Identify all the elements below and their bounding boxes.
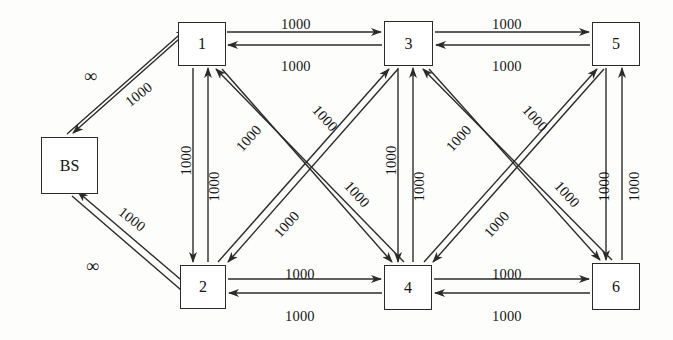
label-4-2-bottom: 1000 <box>285 308 315 325</box>
label-1-2-left: 1000 <box>178 146 195 176</box>
node-3[interactable]: 3 <box>384 21 433 66</box>
node-4[interactable]: 4 <box>384 265 432 310</box>
label-5-6-left: 1000 <box>596 172 613 202</box>
label-2-1-right: 1000 <box>206 172 223 202</box>
label-bs-2-infinity: ∞ <box>86 256 99 277</box>
label-3-1-bottom: 1000 <box>281 58 311 75</box>
node-6[interactable]: 6 <box>592 263 640 310</box>
label-6-5-right: 1000 <box>626 172 643 202</box>
network-topology-diagram: BS135246 ∞10001000∞100010001000100010001… <box>0 0 673 340</box>
edge-layer <box>0 0 673 340</box>
edge-3-2-down <box>228 69 398 262</box>
node-2[interactable]: 2 <box>180 265 226 309</box>
edge-1-4-down <box>222 69 392 262</box>
node-label: 5 <box>612 35 620 53</box>
node-5[interactable]: 5 <box>592 22 640 66</box>
edge-5-4-down <box>433 69 604 262</box>
node-label: 1 <box>198 35 206 53</box>
node-label: 4 <box>404 279 412 297</box>
edge-3-6-down <box>429 69 600 260</box>
node-bs[interactable]: BS <box>41 137 98 194</box>
label-3-4-left: 1000 <box>383 146 400 176</box>
label-3-5-top: 1000 <box>492 16 522 33</box>
label-4-3-right: 1000 <box>411 172 428 202</box>
node-1[interactable]: 1 <box>178 22 226 66</box>
label-6-4-bottom: 1000 <box>492 308 522 325</box>
node-label: 2 <box>199 278 207 296</box>
node-label: 3 <box>405 35 413 53</box>
node-label: 6 <box>612 278 620 296</box>
label-1-3-top: 1000 <box>281 16 311 33</box>
label-2-4-top: 1000 <box>285 266 315 283</box>
label-4-6-top: 1000 <box>492 266 522 283</box>
edges-group <box>67 24 622 302</box>
label-5-3-bottom: 1000 <box>492 58 522 75</box>
label-bs-1-infinity: ∞ <box>84 66 97 87</box>
node-label: BS <box>60 157 80 175</box>
edge-4-5-up <box>424 69 597 262</box>
